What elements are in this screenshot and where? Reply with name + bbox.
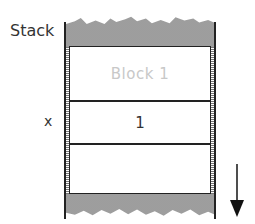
arrow-down-icon <box>229 164 245 218</box>
stack-right-hatch <box>211 47 214 194</box>
stack-slot-x: 1 <box>70 100 210 143</box>
slot-value: 1 <box>135 114 145 132</box>
stack-frame: Block 1 1 <box>69 46 211 194</box>
stack-label: Stack <box>10 21 54 41</box>
variable-x-label: x <box>44 112 52 130</box>
stack-slot-empty <box>70 143 210 193</box>
stack-top-torn-edge <box>66 14 214 47</box>
stack-slot-block: Block 1 <box>70 47 210 100</box>
slot-label: Block 1 <box>111 65 169 83</box>
stack-right-wall <box>214 22 216 219</box>
stack-bottom-torn-edge <box>66 194 214 220</box>
